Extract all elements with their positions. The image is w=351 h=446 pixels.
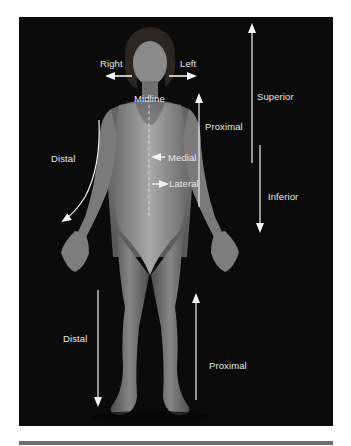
bottom-rule-divider bbox=[19, 441, 333, 445]
hand-right-shape bbox=[61, 231, 89, 272]
body-silhouette-and-arrows bbox=[19, 17, 333, 426]
label-proximal-arm: Proximal bbox=[205, 121, 243, 132]
label-midline: Midline bbox=[134, 93, 165, 104]
label-proximal-leg: Proximal bbox=[209, 360, 247, 371]
label-superior: Superior bbox=[257, 91, 294, 102]
label-distal-arm: Distal bbox=[51, 153, 75, 164]
floor-shadow bbox=[90, 411, 210, 423]
anatomy-figure-photo: Right Left Midline Superior Proximal Dis… bbox=[19, 17, 333, 426]
hand-left-shape bbox=[211, 231, 239, 272]
head-shape bbox=[133, 41, 167, 85]
label-lateral: Lateral bbox=[169, 178, 199, 189]
label-left: Left bbox=[180, 58, 196, 69]
label-medial: Medial bbox=[168, 152, 197, 163]
label-distal-leg: Distal bbox=[63, 333, 87, 344]
label-inferior: Inferior bbox=[268, 191, 298, 202]
label-right: Right bbox=[100, 58, 123, 69]
